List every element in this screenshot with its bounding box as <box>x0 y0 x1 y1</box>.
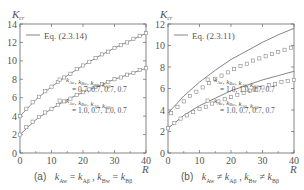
y-tick-label: 6 <box>160 83 165 94</box>
y-tick-label: 8 <box>160 62 165 73</box>
series-marker <box>192 111 195 114</box>
series-marker <box>18 115 21 118</box>
chart-figure: 01020304002468101214KcrREq. (2.3.14)kAw,… <box>0 0 304 190</box>
series-marker <box>100 53 103 56</box>
series-marker <box>207 82 210 85</box>
series-marker <box>286 79 289 82</box>
series-marker <box>107 50 110 53</box>
series-marker <box>138 68 141 71</box>
legend-label-values: = 1.0, 0.7, 1.0, 0.7 <box>72 106 127 115</box>
series-marker <box>132 71 135 74</box>
series-marker <box>166 127 169 130</box>
x-tick-label: 20 <box>78 155 88 166</box>
legend-label-values: = 1.0, 1.0, 0.7, 0.7 <box>220 85 275 94</box>
series-marker <box>138 34 141 37</box>
chart-panel-b: 010203040024681012KcrREq. (2.3.11)kAw, k… <box>155 8 299 175</box>
x-tick-label: 0 <box>18 155 23 166</box>
series-marker <box>185 114 188 117</box>
x-tick-label: 30 <box>110 155 120 166</box>
y-axis-label: Kcr <box>159 8 173 21</box>
legend-square-swatch <box>206 99 209 102</box>
x-tick-label: 20 <box>226 155 236 166</box>
legend-square-swatch <box>58 99 61 102</box>
series-marker <box>132 37 135 40</box>
y-tick-label: 8 <box>12 74 17 85</box>
y-tick-label: 6 <box>12 92 17 103</box>
y-tick-label: 10 <box>7 55 17 66</box>
series-marker <box>201 86 204 89</box>
x-tick-label: 0 <box>166 155 171 166</box>
caption-b: (b) kAw ≠ kAβ , kBw ≠ kBβ <box>181 171 279 184</box>
series-marker <box>258 57 261 60</box>
series-marker <box>94 56 97 59</box>
series-marker <box>88 60 91 63</box>
series-marker <box>119 44 122 47</box>
y-axis-label: Kcr <box>11 8 25 21</box>
series-marker <box>50 85 53 88</box>
x-tick-label: 10 <box>47 155 57 166</box>
caption-a: (a) kAw = kAβ , kBw = kBβ <box>34 171 132 184</box>
series-marker <box>25 107 28 110</box>
series-marker <box>113 78 116 81</box>
series-marker <box>289 46 292 49</box>
series-line <box>168 71 294 128</box>
chart-panel-a: 01020304002468101214KcrREq. (2.3.14)kAw,… <box>7 8 151 175</box>
series-marker <box>195 90 198 93</box>
legend-square-swatch <box>206 78 209 81</box>
series-marker <box>50 107 53 110</box>
series-marker <box>31 101 34 104</box>
series-marker <box>56 103 59 106</box>
series-line <box>168 28 294 113</box>
series-marker <box>280 80 283 83</box>
series-marker <box>226 71 229 74</box>
series-marker <box>119 76 122 79</box>
series-marker <box>126 41 129 44</box>
y-tick-label: 4 <box>160 105 165 116</box>
series-marker <box>144 32 147 35</box>
series-marker <box>75 68 78 71</box>
x-axis-label: R <box>141 163 149 175</box>
series-marker <box>233 68 236 71</box>
series-marker <box>126 73 129 76</box>
y-tick-label: 14 <box>7 19 17 30</box>
legend-label-values: = 1.0, 0.7, 0.7, 0.7 <box>220 106 275 115</box>
series-marker <box>204 105 207 108</box>
series-marker <box>81 64 84 67</box>
series-marker <box>37 115 40 118</box>
series-marker <box>239 64 242 67</box>
series-marker <box>292 78 295 81</box>
series-marker <box>31 120 34 123</box>
series-marker <box>179 117 182 120</box>
y-tick-label: 2 <box>12 129 17 140</box>
series-marker <box>25 126 28 129</box>
series-marker <box>170 112 173 115</box>
y-tick-label: 12 <box>7 37 17 48</box>
series-marker <box>277 50 280 53</box>
series-marker <box>270 53 273 56</box>
series-marker <box>182 100 185 103</box>
series-marker <box>69 72 72 75</box>
series-marker <box>245 62 248 65</box>
y-tick-label: 12 <box>155 19 165 30</box>
legend-label-equation: Eq. (2.3.14) <box>44 31 87 41</box>
y-tick-label: 0 <box>160 148 165 159</box>
y-tick-label: 0 <box>12 148 17 159</box>
series-marker <box>176 105 179 108</box>
series-marker <box>113 46 116 49</box>
legend-square-swatch <box>58 78 61 81</box>
caption-a-label: (a) <box>34 171 46 182</box>
series-marker <box>18 133 21 136</box>
series-marker <box>188 94 191 97</box>
series-marker <box>173 121 176 124</box>
series-marker <box>44 90 47 93</box>
series-marker <box>37 95 40 98</box>
y-tick-label: 2 <box>160 126 165 137</box>
series-marker <box>144 67 147 70</box>
x-tick-label: 30 <box>258 155 268 166</box>
series-marker <box>251 59 254 62</box>
y-tick-label: 4 <box>12 111 17 122</box>
series-marker <box>283 48 286 51</box>
series-marker <box>198 107 201 110</box>
legend-label-values: = 0.7, 0.7, 0.7, 0.7 <box>72 85 127 94</box>
series-marker <box>264 55 267 58</box>
